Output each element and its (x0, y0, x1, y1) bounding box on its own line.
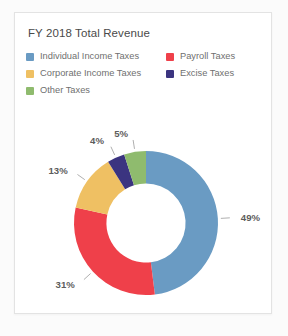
slice-percentage-label: 13% (49, 165, 69, 176)
legend-item-excise-taxes[interactable]: Excise Taxes (166, 67, 235, 81)
legend-swatch-icon (26, 53, 34, 61)
leader-line (84, 274, 91, 280)
legend-item-individual-income-taxes[interactable]: Individual Income Taxes (26, 50, 141, 64)
slice-percentage-label: 49% (241, 212, 261, 223)
legend-label: Corporate Income Taxes (40, 69, 141, 78)
slice-percentage-label: 4% (90, 135, 104, 146)
legend-label: Excise Taxes (180, 69, 234, 78)
donut-chart-svg: 49%31%13%4%5% (15, 93, 271, 313)
donut-chart: 49%31%13%4%5% (15, 93, 271, 313)
chart-card: FY 2018 Total Revenue Individual Income … (14, 12, 272, 314)
chart-title: FY 2018 Total Revenue (28, 27, 150, 39)
screenshot-root: FY 2018 Total Revenue Individual Income … (0, 0, 288, 336)
legend-item-corporate-income-taxes[interactable]: Corporate Income Taxes (26, 67, 141, 81)
legend-swatch-icon (166, 53, 174, 61)
leader-line (133, 140, 134, 149)
donut-slice-group (74, 151, 218, 295)
leader-line (77, 174, 84, 179)
slice-percentage-label: 5% (114, 128, 128, 139)
donut-slice[interactable] (74, 208, 155, 295)
legend-label: Individual Income Taxes (40, 52, 139, 61)
donut-slice[interactable] (146, 151, 218, 294)
legend-item-payroll-taxes[interactable]: Payroll Taxes (166, 50, 235, 64)
legend-swatch-icon (26, 70, 34, 78)
legend-label: Payroll Taxes (180, 52, 235, 61)
legend-swatch-icon (166, 70, 174, 78)
leader-line (111, 147, 115, 155)
legend-column-right: Payroll Taxes Excise Taxes (166, 50, 235, 84)
slice-percentage-label: 31% (56, 279, 76, 290)
leader-line (221, 218, 230, 219)
